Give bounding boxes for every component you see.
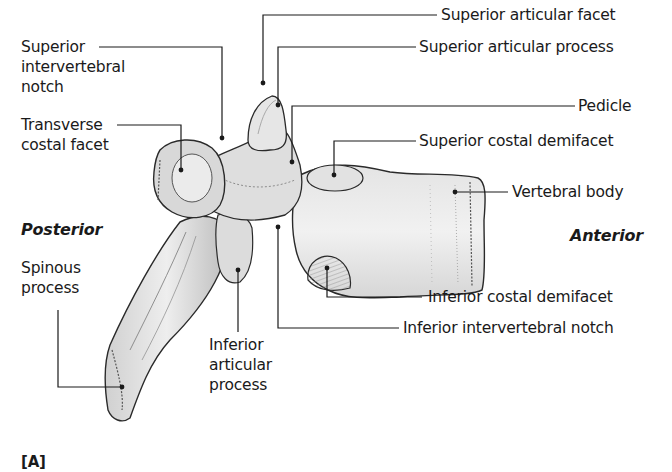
label-inferior-intervertebral-notch: Inferior intervertebral notch bbox=[403, 318, 614, 338]
leader-superior-articular-facet bbox=[263, 15, 437, 83]
leader-superior-articular-process bbox=[278, 47, 416, 105]
inferior-articular-process-shape bbox=[216, 213, 253, 283]
superior-articular-process-shape bbox=[248, 96, 286, 151]
label-line: Spinous bbox=[21, 258, 81, 278]
label-line: notch bbox=[21, 77, 125, 97]
label-line: Transverse bbox=[21, 115, 109, 135]
label-inferior-articular-process: Inferior articular process bbox=[209, 335, 272, 395]
label-vertebral-body: Vertebral body bbox=[512, 182, 623, 202]
label-superior-intervertebral-notch: Superior intervertebral notch bbox=[21, 37, 125, 97]
orientation-posterior: Posterior bbox=[21, 220, 102, 240]
label-inferior-costal-demifacet: Inferior costal demifacet bbox=[428, 287, 613, 307]
label-line: Superior bbox=[21, 37, 125, 57]
panel-tag: [A] bbox=[21, 452, 46, 472]
label-line: Inferior bbox=[209, 335, 272, 355]
label-pedicle: Pedicle bbox=[578, 96, 631, 116]
orientation-anterior: Anterior bbox=[570, 226, 643, 246]
label-spinous-process: Spinous process bbox=[21, 258, 81, 298]
superior-costal-demifacet-shape bbox=[307, 165, 363, 191]
label-transverse-costal-facet: Transverse costal facet bbox=[21, 115, 109, 155]
transverse-costal-facet-shape bbox=[172, 154, 212, 202]
label-line: costal facet bbox=[21, 135, 109, 155]
label-superior-articular-process: Superior articular process bbox=[419, 37, 614, 57]
label-line: intervertebral bbox=[21, 57, 125, 77]
label-superior-costal-demifacet: Superior costal demifacet bbox=[419, 131, 613, 151]
label-line: process bbox=[21, 278, 81, 298]
label-superior-articular-facet: Superior articular facet bbox=[441, 5, 616, 25]
label-line: articular bbox=[209, 355, 272, 375]
label-line: process bbox=[209, 375, 272, 395]
